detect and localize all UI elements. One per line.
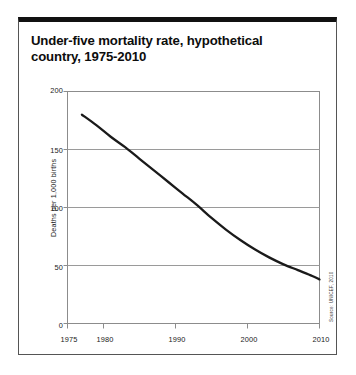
data-line-under-five-mortality — [82, 115, 320, 280]
figure-container: Under-five mortality rate, hypothetical … — [18, 17, 337, 355]
plot-area: Deaths per 1,000 births 200 150 100 50 0… — [19, 22, 338, 360]
chart-svg — [19, 22, 338, 360]
source-credit: Source: UNICEF, 2010 — [329, 272, 334, 322]
